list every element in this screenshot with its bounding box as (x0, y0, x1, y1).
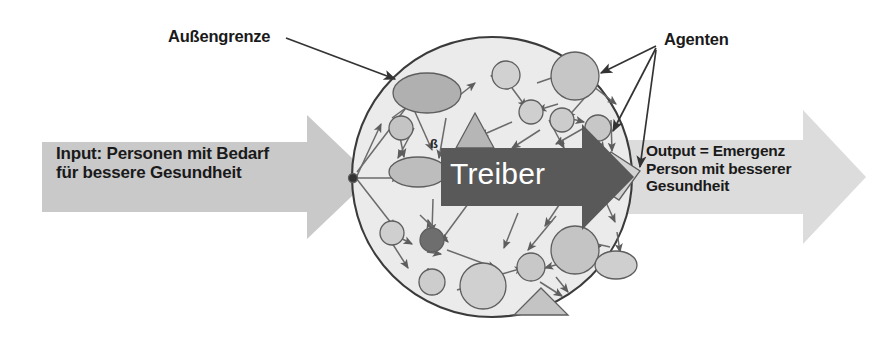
agent-node (595, 251, 637, 279)
boundary-leader-line (286, 38, 395, 79)
agent-node (517, 253, 545, 281)
agent-node (551, 52, 599, 100)
driver-annotation-mark: ß (430, 136, 438, 151)
output-label: Output = Emergenz Person mit besserer Ge… (646, 142, 791, 195)
input-label: Input: Personen mit Bedarf für bessere G… (56, 144, 269, 183)
agent-node (551, 226, 599, 274)
agent-node (419, 269, 445, 295)
diagram-canvas: ß Außengrenze Agenten Input: Personen mi… (0, 0, 882, 341)
driver-label: Treiber (450, 157, 545, 191)
agent-node (420, 228, 444, 252)
agent-node (492, 61, 520, 89)
agent-node (349, 174, 358, 183)
agent-node (380, 221, 404, 245)
agent-node (389, 157, 447, 187)
agent-node (550, 108, 574, 132)
agents-label: Agenten (664, 30, 729, 49)
agent-node (393, 73, 461, 113)
boundary-label: Außengrenze (168, 27, 270, 46)
agent-node (389, 116, 413, 140)
agent-node (519, 100, 543, 124)
agent-node (460, 263, 506, 309)
